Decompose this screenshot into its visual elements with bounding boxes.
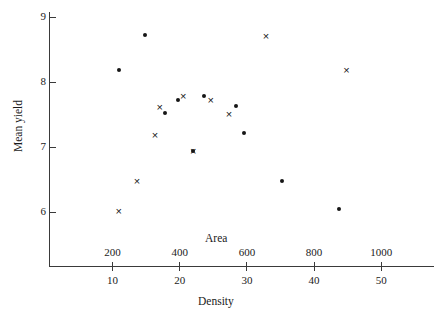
y-axis-line [49,12,50,267]
x-axis-tick: 20010 [112,262,113,271]
density-axis-tick-label: 30 [241,274,252,287]
density-axis-title: Density [198,295,234,307]
x-axis-tick: 60030 [246,262,247,271]
data-point-dot [337,207,341,211]
x-axis-tick: 100050 [381,262,382,271]
data-point-cross [342,65,351,74]
data-point-cross [132,177,141,186]
x-axis-tick: 80040 [314,262,315,271]
data-point-dot [242,131,246,135]
y-axis-tick-label: 8 [41,74,47,88]
scatter-plot-figure: 9876 20010400206003080040100050 Mean yie… [0,0,438,317]
area-axis-tick-label: 200 [104,246,121,259]
y-axis-tick-label: 7 [41,139,47,153]
x-axis-tick: 40020 [179,262,180,271]
data-point-cross [151,131,160,140]
y-axis-tick: 6 [50,212,56,213]
x-axis-line [49,266,434,267]
data-point-cross [206,95,215,104]
y-axis-tick-label: 6 [41,204,47,218]
data-point-dot [280,179,284,183]
data-point-cross [224,109,233,118]
area-axis-tick-label: 800 [306,246,323,259]
data-point-cross [114,206,123,215]
area-axis-title: Area [205,232,227,244]
density-axis-tick-label: 20 [174,274,185,287]
y-axis-tick-label: 9 [41,9,47,23]
density-axis-tick-label: 40 [309,274,320,287]
area-axis-tick-label: 600 [239,246,256,259]
density-axis-tick-label: 50 [376,274,387,287]
area-axis-tick-label: 1000 [370,246,392,259]
data-point-cross [261,31,270,40]
density-axis-tick-label: 10 [107,274,118,287]
area-axis-tick-label: 400 [171,246,188,259]
y-axis-tick: 8 [50,82,56,83]
data-point-cross [179,92,188,101]
data-point-dot [117,68,121,72]
data-point-cross [155,103,164,112]
y-axis-title: Mean yield [12,86,24,166]
data-point-cross [189,146,198,155]
y-axis-tick: 9 [50,17,56,18]
y-axis-tick: 7 [50,147,56,148]
data-point-dot [143,33,147,37]
data-point-dot [234,104,238,108]
